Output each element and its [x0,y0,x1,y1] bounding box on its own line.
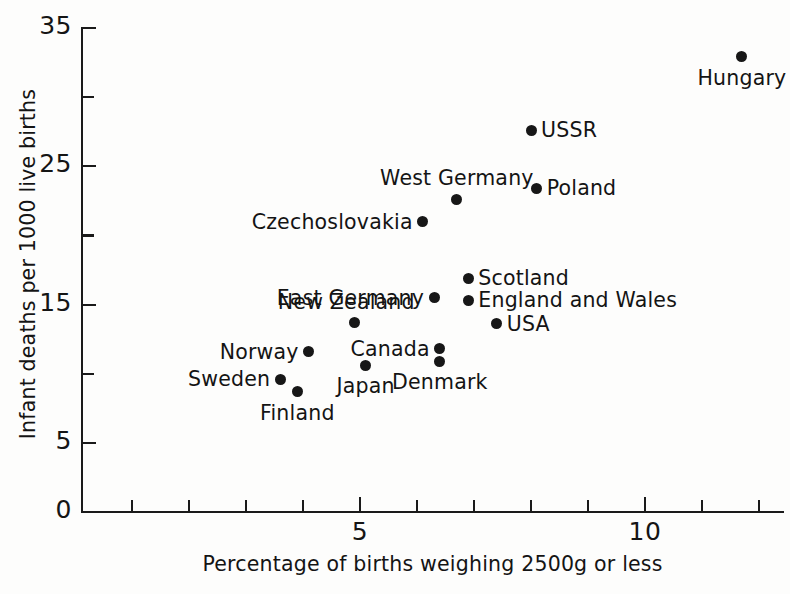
y-tick-major [83,165,96,167]
data-point-label: Canada [351,337,430,361]
x-tick-minor [416,500,418,512]
x-tick-minor [302,500,304,512]
data-point [275,374,286,385]
x-tick-minor [758,500,760,512]
data-point-label: England and Wales [478,288,677,312]
y-tick-major [83,304,96,306]
data-point-label: Finland [260,401,335,425]
data-point [360,360,371,371]
scatter-plot-figure: 05152535510 HungaryUSSRPolandWest German… [0,0,790,594]
x-tick-label: 5 [330,517,390,546]
y-tick-major [83,442,96,444]
data-point [292,386,303,397]
y-axis-line [81,27,83,513]
y-tick-major [83,27,96,29]
data-point [434,356,445,367]
x-tick-minor [530,500,532,512]
data-point [491,318,502,329]
data-point [349,317,360,328]
x-tick-label: 10 [615,517,675,546]
data-point [434,343,445,354]
y-axis-title: Infant deaths per 1000 live births [16,24,40,504]
y-tick-minor [83,373,94,375]
y-tick-minor [83,234,94,236]
x-tick-minor [131,500,133,512]
data-point-label: West Germany [380,166,534,190]
x-tick-minor [245,500,247,512]
data-point-label: Sweden [188,367,270,391]
data-point [429,292,440,303]
data-point [463,273,474,284]
data-point [736,51,747,62]
data-point [417,216,428,227]
data-point-label: USSR [541,118,597,142]
x-axis-line [81,511,784,513]
data-point [463,295,474,306]
data-point-label: Japan [337,374,395,398]
x-tick-minor [701,500,703,512]
data-point-label: New Zealand [278,290,415,314]
y-tick-major [83,511,96,513]
data-point [451,194,462,205]
data-point [303,346,314,357]
x-axis-title: Percentage of births weighing 2500g or l… [81,552,784,576]
data-point-label: Hungary [697,66,786,90]
data-point-label: Denmark [392,370,488,394]
x-tick-minor [188,500,190,512]
data-point-label: Norway [220,340,299,364]
x-tick-major [644,497,646,512]
data-point [526,125,537,136]
x-tick-minor [587,500,589,512]
x-tick-minor [473,500,475,512]
data-point-label: USA [507,312,550,336]
data-point-label: Czechoslovakia [252,210,413,234]
y-tick-minor [83,96,94,98]
data-point-label: Poland [547,176,617,200]
data-point-label: Scotland [478,266,569,290]
x-tick-major [359,497,361,512]
